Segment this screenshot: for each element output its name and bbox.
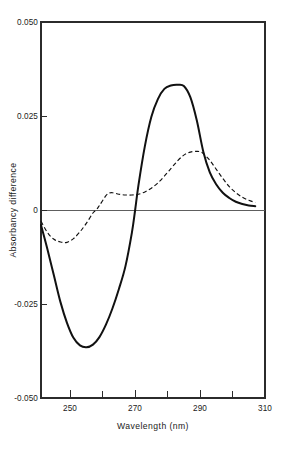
- x-tick-label-2: 290: [193, 404, 207, 413]
- x-axis-minor-ticks: [102, 391, 232, 398]
- x-tick-label-0: 250: [63, 404, 77, 413]
- chart-svg: 0.050 0.025 0 -0.025 -0.050 250 270 290 …: [0, 0, 288, 451]
- y-tick-label-2: 0: [33, 206, 38, 215]
- x-tick-label-1: 270: [128, 404, 142, 413]
- y-axis-ticks: [41, 22, 47, 398]
- y-tick-label-0: 0.050: [17, 18, 38, 27]
- y-tick-label-3: -0.025: [14, 300, 38, 309]
- series-dashed-curve: [41, 151, 255, 242]
- x-axis-tick-labels: 250 270 290 310: [63, 404, 272, 413]
- x-axis-title: Wavelength (nm): [117, 421, 189, 431]
- figure-container: 0.050 0.025 0 -0.025 -0.050 250 270 290 …: [0, 0, 288, 451]
- series-solid-curve: [41, 85, 255, 348]
- x-tick-label-3: 310: [258, 404, 272, 413]
- y-tick-label-1: 0.025: [17, 112, 38, 121]
- y-tick-label-4: -0.050: [14, 394, 38, 403]
- y-axis-title: Absorbancy difference: [8, 163, 18, 258]
